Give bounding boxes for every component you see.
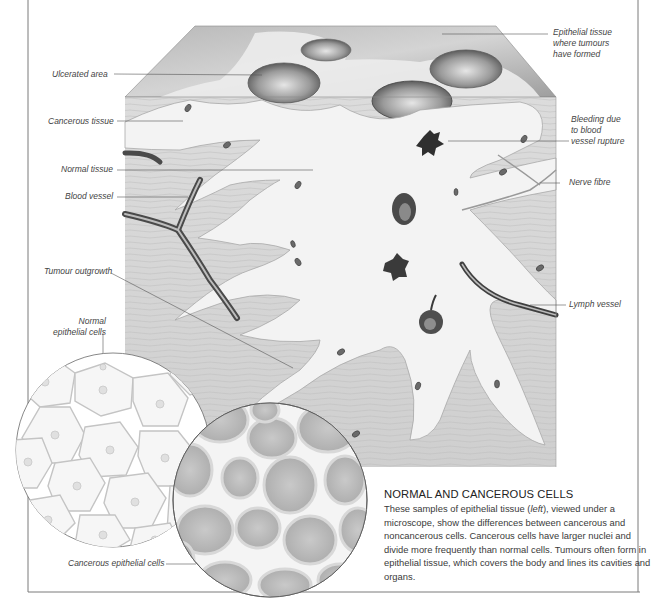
label-lymph-vessel: Lymph vessel — [569, 299, 621, 310]
label-ulcerated-area: Ulcerated area — [52, 69, 108, 80]
label-tumour-outgrowth: Tumour outgrowth — [44, 266, 112, 277]
label-normal-tissue: Normal tissue — [61, 164, 113, 175]
label-normal-epithelial-cells: Normal epithelial cells — [40, 316, 106, 338]
label-cancerous-tissue: Cancerous tissue — [48, 116, 114, 127]
caption-title: NORMAL AND CANCEROUS CELLS — [384, 487, 654, 501]
label-bleeding: Bleeding due to blood vessel rupture — [571, 114, 624, 147]
figure-stage: Ulcerated area Epithelial tissue where t… — [0, 0, 664, 611]
label-blood-vessel: Blood vessel — [65, 191, 113, 202]
label-epithelial-tissue: Epithelial tissue where tumours have for… — [553, 27, 612, 60]
caption-body: These samples of epithelial tissue (left… — [384, 502, 654, 584]
label-nerve-fibre: Nerve fibre — [569, 177, 611, 188]
caption-text: ), viewed under a microscope, show the d… — [384, 503, 650, 582]
caption: NORMAL AND CANCEROUS CELLS These samples… — [384, 487, 654, 584]
caption-text: These samples of epithelial tissue ( — [384, 503, 530, 514]
label-cancerous-epithelial-cells: Cancerous epithelial cells — [68, 558, 164, 569]
caption-emphasis: left — [530, 503, 543, 514]
